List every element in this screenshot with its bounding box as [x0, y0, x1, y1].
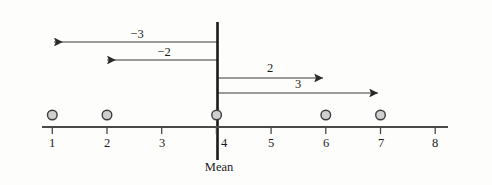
- deviation-arrows: [54, 42, 378, 93]
- number-line-diagram: [0, 0, 492, 185]
- deviation-label-minus2: −2: [157, 46, 170, 59]
- mean-label: Mean: [205, 161, 233, 174]
- deviation-label-minus3: −3: [130, 28, 143, 41]
- axis-tick-label-7: 7: [378, 137, 384, 150]
- data-points: [48, 110, 386, 120]
- axis-tick-label-1: 1: [49, 137, 55, 150]
- deviation-label-plus3: 3: [295, 78, 301, 91]
- axis-tick-label-4: 4: [221, 137, 227, 150]
- deviation-label-plus2: 2: [267, 62, 273, 75]
- data-point-dot: [376, 110, 386, 120]
- axis-tick-label-8: 8: [432, 137, 438, 150]
- deviation-number-line-figure: −3 −2 2 3 1 2 3 4 5 6 7 8 Mean: [0, 0, 492, 185]
- data-point-dot: [102, 110, 112, 120]
- axis-tick-label-3: 3: [159, 137, 165, 150]
- axis-tick-label-5: 5: [268, 137, 274, 150]
- data-point-dot: [212, 110, 222, 120]
- axis-tick-label-2: 2: [104, 137, 110, 150]
- data-point-dot: [321, 110, 331, 120]
- axis-ticks: [52, 127, 435, 134]
- axis-tick-label-6: 6: [323, 137, 329, 150]
- data-point-dot: [48, 110, 58, 120]
